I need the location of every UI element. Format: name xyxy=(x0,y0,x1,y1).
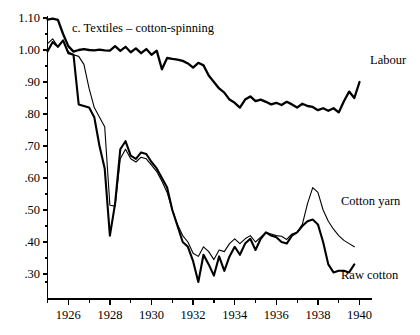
y-tick-label: .70 xyxy=(0,140,40,153)
series-line-raw-cotton xyxy=(48,40,355,282)
x-tick-label: 1938 xyxy=(296,309,340,322)
y-tick-label: .30 xyxy=(0,268,40,281)
x-tick-label: 1928 xyxy=(88,309,132,322)
x-tick-label: 1932 xyxy=(171,309,215,322)
x-tick-label: 1936 xyxy=(254,309,298,322)
x-tick-label: 1940 xyxy=(338,309,382,322)
x-tick-label: 1934 xyxy=(213,309,257,322)
chart-title: c. Textiles – cotton-spinning xyxy=(72,22,214,35)
series-label-labour: Labour xyxy=(370,54,406,67)
chart-canvas xyxy=(0,0,420,335)
series-label-raw-cotton: Raw cotton xyxy=(341,269,398,282)
y-tick-label: .40 xyxy=(0,236,40,249)
chart-figure: 1.101.00.90.80.70.60.50.40.3019261928193… xyxy=(0,0,420,335)
y-tick-label: 1.00 xyxy=(0,44,40,57)
x-tick-label: 1930 xyxy=(130,309,174,322)
y-tick-label: .90 xyxy=(0,76,40,89)
chart-series xyxy=(48,19,360,282)
y-tick-label: .50 xyxy=(0,204,40,217)
series-label-cotton-yarn: Cotton yarn xyxy=(341,195,400,208)
y-tick-label: 1.10 xyxy=(0,12,40,25)
x-tick-label: 1926 xyxy=(46,309,90,322)
y-tick-label: .60 xyxy=(0,172,40,185)
series-line-cotton-yarn xyxy=(48,39,355,260)
y-tick-label: .80 xyxy=(0,108,40,121)
